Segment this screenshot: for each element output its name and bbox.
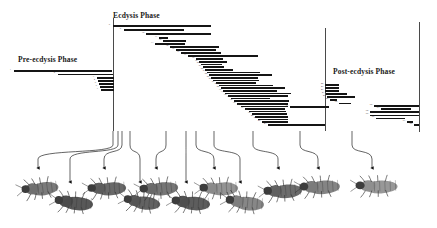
post-ecdysis-hardened [350,175,398,198]
specimen-image-group [0,0,437,228]
nymph-dorsal-intact [15,175,60,202]
nymph-head-emerging [82,176,127,201]
figure-ecdysis-ethogram: Pre-ecdysis Phase Ecdysis Phase Post-ecd… [0,0,437,228]
post-ecdysis-sclerotised [294,174,341,199]
teneral-upright [257,178,303,204]
nymph-splitting-cuticle [49,190,94,215]
nymph-abdomen-emerging [166,190,211,214]
